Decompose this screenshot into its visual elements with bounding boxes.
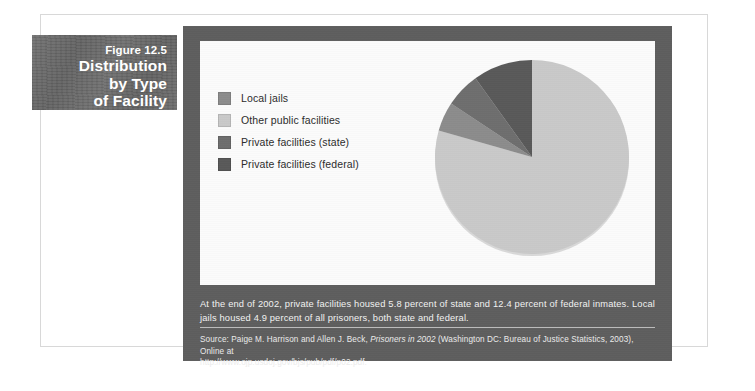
legend-swatch-other-public-facilities	[218, 114, 231, 127]
figure-number: Figure 12.5	[38, 43, 167, 57]
source-url[interactable]: http://www.ojp.usdoj.gov/bjs/pub/pdf/p02…	[200, 358, 367, 367]
figure-panel: Local jails Other public facilities Priv…	[183, 26, 672, 361]
legend-item-private-facilities-federal[interactable]: Private facilities (federal)	[218, 153, 408, 175]
legend-label-private-facilities-state: Private facilities (state)	[241, 136, 349, 148]
source-title: Prisoners in 2002	[370, 335, 435, 344]
chart-legend: Local jails Other public facilities Priv…	[218, 87, 408, 175]
chart-plate: Local jails Other public facilities Priv…	[200, 41, 655, 285]
pie-chart-svg	[422, 45, 642, 271]
legend-swatch-private-facilities-federal	[218, 158, 231, 171]
source-divider	[200, 327, 655, 328]
figure-source: Source: Paige M. Harrison and Allen J. B…	[200, 334, 660, 369]
legend-swatch-private-facilities-state	[218, 136, 231, 149]
legend-item-other-public-facilities[interactable]: Other public facilities	[218, 109, 408, 131]
legend-swatch-local-jails	[218, 92, 231, 105]
legend-item-local-jails[interactable]: Local jails	[218, 87, 408, 109]
figure-title-line-2: by Type	[38, 76, 167, 93]
pie-slice-group	[435, 60, 629, 254]
legend-label-private-facilities-federal: Private facilities (federal)	[241, 158, 359, 170]
pie-chart	[422, 45, 642, 271]
figure-title-line-1: Distribution	[38, 58, 167, 75]
legend-item-private-facilities-state[interactable]: Private facilities (state)	[218, 131, 408, 153]
source-prefix: Source: Paige M. Harrison and Allen J. B…	[200, 335, 368, 344]
figure-note: At the end of 2002, private facilities h…	[200, 298, 655, 325]
figure-title-line-3: of Facility	[38, 93, 167, 110]
figure-title-box: Figure 12.5 Distribution by Type of Faci…	[32, 35, 177, 110]
figure-root: Local jails Other public facilities Priv…	[0, 0, 755, 391]
legend-label-other-public-facilities: Other public facilities	[241, 114, 340, 126]
legend-label-local-jails: Local jails	[241, 92, 288, 104]
